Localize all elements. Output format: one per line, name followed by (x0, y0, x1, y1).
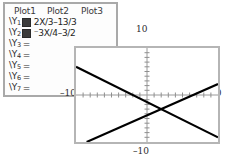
function-index-y6: 6 (17, 74, 21, 82)
equals-sign-y5[interactable]: = (23, 61, 31, 71)
function-index-y7: 7 (17, 85, 21, 93)
equals-sign-y3[interactable]: = (23, 39, 31, 49)
graph-screen[interactable] (74, 46, 220, 144)
equals-sign-y6[interactable]: = (23, 72, 31, 82)
tab-plot1[interactable]: Plot1 (14, 6, 36, 16)
graph-panel: 10 –10 10 –10 (60, 20, 241, 163)
graph-plot (76, 48, 218, 142)
function-label-y7: \Y7 (9, 82, 21, 94)
equals-sign-y7[interactable]: = (23, 83, 31, 93)
calculator-screenshot: Plot1 Plot2 Plot3 \Y1 2X/3–13/3 \Y2 ⁻3X/… (0, 0, 241, 163)
select-indicator-y1[interactable] (22, 18, 31, 27)
equals-sign-y4[interactable]: = (23, 50, 31, 60)
tab-plot3[interactable]: Plot3 (81, 6, 103, 16)
function-index-y2: 2 (17, 30, 21, 38)
axis-label-y-min: –10 (133, 147, 149, 156)
function-index-y4: 4 (17, 52, 21, 60)
select-indicator-y2[interactable] (22, 29, 31, 38)
function-index-y5: 5 (17, 63, 21, 71)
tab-plot2[interactable]: Plot2 (47, 6, 69, 16)
axis-label-y-max: 10 (136, 25, 147, 34)
function-index-y3: 3 (17, 41, 21, 49)
function-index-y1: 1 (17, 19, 21, 27)
